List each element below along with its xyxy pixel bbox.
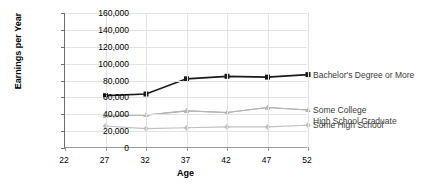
- gridline-vertical: [268, 13, 269, 147]
- y-tick-label: 20,000: [67, 127, 129, 135]
- y-tick-label: 160,000: [67, 9, 129, 17]
- x-tick-label: 37: [166, 155, 206, 165]
- gridline-vertical: [146, 13, 147, 147]
- x-tick-label: 42: [206, 155, 246, 165]
- legend-label-2: Some College: [313, 105, 366, 115]
- y-tick-mark: [61, 13, 65, 14]
- y-tick-mark: [61, 47, 65, 48]
- y-tick-mark: [61, 30, 65, 31]
- y-tick-mark: [61, 64, 65, 65]
- y-tick-mark: [61, 114, 65, 115]
- y-tick-label: 140,000: [67, 26, 129, 34]
- gridline-vertical: [308, 13, 309, 147]
- y-tick-label: 40,000: [67, 110, 129, 118]
- line-chart: Earnings per Year Age 020,00040,00060,00…: [0, 0, 440, 192]
- y-tick-label: 60,000: [67, 93, 129, 101]
- x-tick-label: 22: [44, 155, 84, 165]
- y-tick-label: 80,000: [67, 77, 129, 85]
- x-tick-mark: [308, 147, 309, 151]
- series-4: [103, 122, 311, 131]
- x-tick-label: 27: [85, 155, 125, 165]
- x-axis-title: Age: [64, 168, 307, 178]
- x-tick-mark: [65, 147, 66, 151]
- y-tick-label: 0: [67, 144, 129, 152]
- x-tick-label: 47: [247, 155, 287, 165]
- y-tick-mark: [61, 131, 65, 132]
- x-tick-mark: [227, 147, 228, 151]
- x-tick-mark: [187, 147, 188, 151]
- gridline-vertical: [227, 13, 228, 147]
- series-3: [103, 105, 311, 118]
- y-tick-mark: [61, 81, 65, 82]
- series-line: [106, 125, 309, 128]
- x-tick-mark: [146, 147, 147, 151]
- y-tick-label: 100,000: [67, 60, 129, 68]
- series-1: [103, 72, 311, 98]
- gridline-vertical: [187, 13, 188, 147]
- y-tick-mark: [61, 97, 65, 98]
- x-tick-mark: [268, 147, 269, 151]
- legend-label-1: Bachelor's Degree or More: [313, 70, 414, 80]
- legend-label-4: Some High School: [313, 120, 383, 130]
- series-line: [106, 75, 309, 96]
- x-tick-label: 52: [287, 155, 327, 165]
- x-tick-label: 32: [125, 155, 165, 165]
- y-axis-title: Earnings per Year: [13, 0, 23, 111]
- y-tick-label: 120,000: [67, 43, 129, 51]
